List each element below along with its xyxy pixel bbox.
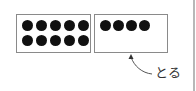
take-away-label: とる (155, 66, 181, 80)
page-edge-divider (193, 0, 195, 91)
